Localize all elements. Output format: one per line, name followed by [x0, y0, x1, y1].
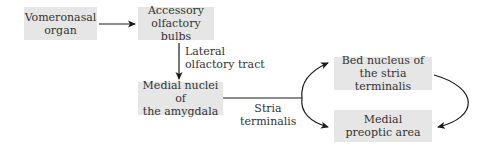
edge-label-line: Stria	[254, 102, 281, 115]
node-label: olfactory bulbs	[151, 17, 200, 43]
node-label: Vomeronasal	[25, 11, 97, 24]
node-bed-nucleus-stria-terminalis: Bed nucleus ofthe stria terminalis	[334, 57, 432, 90]
node-label: Accessory	[148, 4, 204, 17]
node-label: Medial	[364, 113, 402, 126]
node-vomeronasal-organ: Vomeronasalorgan	[24, 7, 97, 40]
edge-label-line: olfactory tract	[185, 58, 265, 71]
node-label: the stria terminalis	[355, 67, 411, 93]
edge-label-line: terminalis	[240, 115, 296, 128]
edge-label-stria-terminalis: Striaterminalis	[240, 102, 296, 128]
node-medial-preoptic-area: Medialpreoptic area	[334, 110, 432, 142]
node-label: Medial nuclei of	[143, 79, 219, 105]
arrow-mea-to-mpoa	[302, 98, 328, 127]
edge-label-lateral-olfactory-tract: Lateralolfactory tract	[185, 45, 265, 71]
node-label: the amygdala	[143, 105, 218, 118]
node-accessory-olfactory-bulbs: Accessoryolfactory bulbs	[138, 7, 214, 40]
arrow-bnst-to-mpoa	[434, 75, 468, 127]
node-label: preoptic area	[346, 126, 421, 139]
edge-label-line: Lateral	[185, 45, 225, 58]
node-label: Bed nucleus of	[342, 54, 424, 67]
node-medial-nuclei-amygdala: Medial nuclei ofthe amygdala	[138, 82, 223, 115]
node-label: organ	[44, 24, 77, 37]
arrow-mea-to-bnst	[302, 63, 328, 98]
